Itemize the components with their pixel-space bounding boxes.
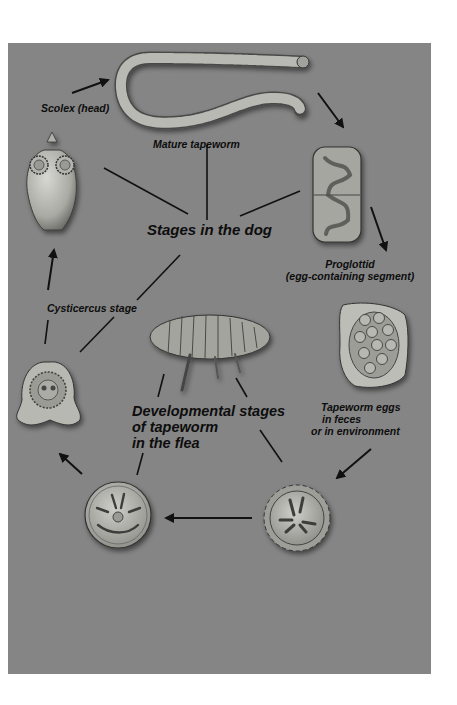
label-flea-line1: Developmental stages bbox=[132, 403, 285, 419]
cysticercus-illustration bbox=[17, 362, 81, 425]
label-mature-tapeworm: Mature tapeworm bbox=[153, 139, 240, 151]
arrow-flea-larva-to-cysticercus bbox=[60, 454, 82, 474]
flea-larval-stage-illustration bbox=[85, 482, 151, 548]
label-proglottid-line2: (egg-containing segment) bbox=[270, 271, 430, 283]
label-eggs-line3: or in environment bbox=[311, 426, 401, 438]
arrow-cysticercus-to-scolex bbox=[48, 250, 54, 290]
label-scolex: Scolex (head) bbox=[41, 103, 109, 115]
label-eggs-line1: Tapeworm eggs bbox=[311, 402, 401, 414]
label-proglottid: Proglottid (egg-containing segment) bbox=[270, 259, 430, 283]
arrow-eggs-to-oncosphere bbox=[337, 449, 371, 478]
label-flea-stages: Developmental stages of tapeworm in the … bbox=[132, 403, 285, 452]
proglottid-illustration bbox=[313, 147, 361, 242]
oncosphere-illustration bbox=[264, 485, 330, 551]
mature-tapeworm-illustration bbox=[121, 56, 309, 123]
label-stages-in-dog: Stages in the dog bbox=[147, 222, 272, 239]
label-tapeworm-eggs: Tapeworm eggs in feces or in environment bbox=[311, 402, 401, 437]
arrow-scolex-to-worm bbox=[72, 80, 108, 93]
arrow-worm-to-proglottid bbox=[318, 93, 343, 127]
label-proglottid-line1: Proglottid bbox=[270, 259, 430, 271]
label-flea-line2: of tapeworm bbox=[132, 419, 285, 435]
arrow-proglottid-to-eggs bbox=[371, 207, 386, 250]
label-eggs-line2: in feces bbox=[311, 414, 401, 426]
egg-packet-illustration bbox=[340, 303, 408, 387]
label-cysticercus: Cysticercus stage bbox=[47, 303, 137, 315]
scolex-tip bbox=[297, 56, 309, 68]
flea-illustration bbox=[150, 315, 270, 390]
label-flea-line3: in the flea bbox=[132, 435, 285, 451]
scolex-head-illustration bbox=[27, 132, 77, 230]
